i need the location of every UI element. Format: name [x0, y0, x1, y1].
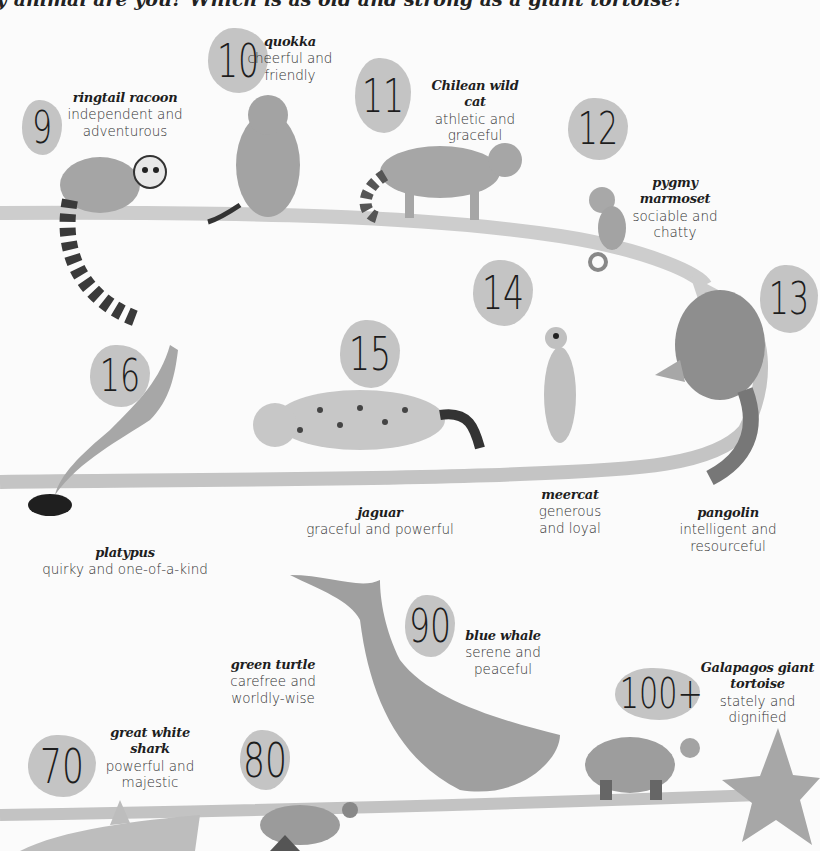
animal-name: shark: [100, 741, 200, 757]
animal-name: blue whale: [458, 628, 548, 644]
animal-trait: stately and: [695, 693, 820, 710]
quokka-icon: [208, 95, 300, 222]
animal-name: Galapagos giant: [695, 660, 820, 676]
animal-trait: cheerful and: [240, 50, 340, 67]
age-number: 80: [240, 736, 290, 784]
sea-turtle-icon: [260, 802, 358, 851]
meerkat-icon: [544, 327, 576, 443]
age-number: 13: [761, 277, 817, 321]
animal-trait: majestic: [100, 774, 200, 791]
animal-name: green turtle: [218, 657, 328, 673]
infographic-page: y animal are you? Which is as old and st…: [0, 0, 820, 851]
animal-label: blue whaleserene andpeaceful: [458, 628, 548, 678]
animal-trait: generous: [535, 503, 605, 520]
animal-label: ringtail racoonindependent andadventurou…: [55, 90, 195, 140]
animal-name: quokka: [240, 34, 340, 50]
animal-label: platypusquirky and one-of-a-kind: [25, 545, 225, 578]
animal-label: great whitesharkpowerful andmajestic: [100, 725, 200, 791]
animal-name: platypus: [25, 545, 225, 561]
jaguar-icon: [253, 390, 480, 450]
age-number: 16: [91, 354, 149, 398]
animal-trait: resourceful: [668, 538, 788, 555]
animal-trait: adventurous: [55, 123, 195, 140]
animal-trait: friendly: [240, 67, 340, 84]
animal-trait: dignified: [695, 709, 820, 726]
animal-label: quokkacheerful andfriendly: [240, 34, 340, 84]
age-number: 11: [356, 73, 411, 119]
age-number: 14: [474, 270, 532, 316]
animal-name: pygmy marmoset: [620, 175, 730, 208]
animal-trait: and loyal: [535, 520, 605, 537]
animal-name: jaguar: [300, 505, 460, 521]
animal-name: Chilean wild cat: [420, 78, 530, 111]
animal-label: pangolinintelligent andresourceful: [668, 505, 788, 555]
animal-trait: worldly-wise: [218, 690, 328, 707]
wild-cat-icon: [366, 143, 522, 220]
animal-name: meercat: [535, 487, 605, 503]
animal-trait: graceful and powerful: [300, 521, 460, 538]
animal-trait: intelligent and: [668, 521, 788, 538]
pangolin-icon: [655, 290, 765, 478]
animal-trait: serene and: [458, 644, 548, 661]
animal-trait: sociable and: [620, 208, 730, 225]
age-number: 12: [569, 107, 627, 151]
animal-label: pygmy marmosetsociable andchatty: [620, 175, 730, 241]
age-number: 90: [405, 603, 455, 649]
animal-trait: quirky and one-of-a-kind: [25, 561, 225, 578]
animal-name: pangolin: [668, 505, 788, 521]
animal-trait: graceful: [420, 127, 530, 144]
animal-label: Galapagos gianttortoisestately anddignif…: [695, 660, 820, 726]
animal-trait: independent and: [55, 106, 195, 123]
animal-label: Chilean wild catathletic andgraceful: [420, 78, 530, 144]
age-number: 15: [341, 331, 399, 377]
animal-trait: peaceful: [458, 661, 548, 678]
age-number: 100+: [620, 673, 696, 715]
animal-label: meercatgenerousand loyal: [535, 487, 605, 537]
tortoise-icon: [585, 737, 700, 800]
ringtail-racoon-icon: [60, 156, 166, 320]
shark-icon: [20, 800, 200, 851]
animal-trait: athletic and: [420, 111, 530, 128]
animal-label: jaguargraceful and powerful: [300, 505, 460, 538]
animal-name: tortoise: [695, 676, 820, 692]
animal-trait: carefree and: [218, 673, 328, 690]
animal-name: great white: [100, 725, 200, 741]
animal-trait: powerful and: [100, 758, 200, 775]
animal-label: green turtlecarefree andworldly-wise: [218, 657, 328, 707]
age-number: 70: [30, 742, 93, 790]
animal-trait: chatty: [620, 224, 730, 241]
animal-name: ringtail racoon: [55, 90, 195, 106]
